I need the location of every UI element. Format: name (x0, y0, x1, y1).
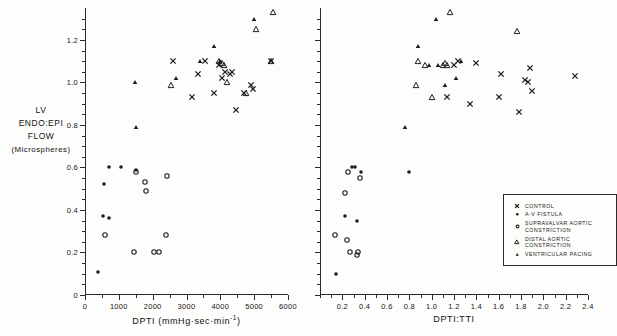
y-tick (82, 146, 85, 147)
data-point-supravalvar (156, 249, 163, 256)
x-tick (320, 295, 321, 298)
x-tick-label: 2.2 (560, 302, 571, 311)
y-tick (317, 136, 320, 137)
data-point-control (188, 94, 196, 102)
legend-label-ventricular-pacing: VENTRICULAR PACING (525, 251, 592, 257)
y-tick (80, 210, 85, 211)
data-point-ventricular_pacing (211, 43, 217, 49)
data-point-control (524, 79, 532, 87)
data-point-control (195, 70, 203, 78)
y-tick (82, 284, 85, 285)
y-tick (317, 61, 320, 62)
data-point-distal_aortic (270, 9, 277, 16)
y-tick (80, 125, 85, 126)
x-tick (443, 295, 444, 298)
data-point-distal_aortic (224, 79, 231, 86)
legend-item-control: CONTROL (509, 203, 612, 209)
data-point-control (250, 85, 258, 93)
data-point-supravalvar (143, 188, 150, 195)
y-tick (317, 19, 320, 20)
data-point-supravalvar (345, 168, 352, 175)
x-tick (271, 295, 272, 298)
x-tick (203, 295, 204, 298)
y-tick (82, 178, 85, 179)
data-point-control (528, 87, 536, 95)
y-tick (82, 72, 85, 73)
legend-item-supravalvar: SUPRAVALVAR AORTIC CONSTRICTION (509, 220, 612, 233)
y-tick (317, 178, 320, 179)
data-point-distal_aortic (268, 58, 275, 65)
legend-item-ventricular-pacing: VENTRICULAR PACING (509, 251, 612, 257)
data-point-supravalvar (131, 249, 138, 256)
data-point-ventricular_pacing (458, 58, 464, 64)
y-axis-spine-left (85, 8, 86, 295)
x-tick-label: 0.6 (381, 302, 392, 311)
y-tick (315, 167, 320, 168)
data-point-control (466, 100, 474, 108)
x-tick (499, 295, 500, 300)
y-tick-label: 0.6 (67, 163, 78, 172)
y-tick (82, 114, 85, 115)
x-axis-title-left-tail: ) (237, 316, 241, 326)
data-point-av_fistula (407, 169, 413, 175)
x-tick (237, 295, 238, 298)
data-point-distal_aortic (168, 81, 175, 88)
data-point-supravalvar (331, 232, 338, 239)
data-point-supravalvar (102, 232, 109, 239)
y-tick-label: 1.0 (67, 78, 78, 87)
x-tick (476, 295, 477, 300)
y-tick (317, 284, 320, 285)
legend-box: CONTROL A-V FISTULA SUPRAVALVAR AORTIC C… (503, 194, 617, 266)
y-tick (317, 157, 320, 158)
legend-label-supravalvar: SUPRAVALVAR AORTIC CONSTRICTION (525, 220, 612, 233)
x-tick (577, 295, 578, 298)
data-point-av_fistula (106, 216, 112, 222)
y-tick (80, 252, 85, 253)
x-tick-label: 3000 (178, 302, 196, 311)
y-tick-label: 1.2 (67, 35, 78, 44)
y-tick (317, 221, 320, 222)
data-point-control (495, 94, 503, 102)
data-point-distal_aortic (242, 90, 249, 97)
x-tick (555, 295, 556, 298)
data-point-ventricular_pacing (415, 43, 421, 49)
y-tick (82, 157, 85, 158)
y-tick (82, 263, 85, 264)
y-tick-label: 0.4 (67, 205, 78, 214)
x-tick (85, 295, 86, 300)
x-axis-title-left: DPTI (mmHg·sec·min-1) (132, 314, 240, 326)
y-tick (317, 72, 320, 73)
data-point-supravalvar (341, 190, 348, 197)
y-tick (315, 252, 320, 253)
data-point-ventricular_pacing (197, 58, 203, 64)
y-tick (82, 93, 85, 94)
data-point-supravalvar (164, 173, 171, 180)
data-point-control (169, 57, 177, 65)
plot-area-right: 0.20.40.60.81.01.21.41.61.82.02.22.4 DPT… (320, 8, 588, 295)
x-tick-label: 0 (83, 302, 87, 311)
data-point-distal_aortic (428, 94, 435, 101)
x-tick (119, 295, 120, 300)
data-point-ventricular_pacing (132, 79, 138, 85)
x-tick-label: 1.2 (448, 302, 459, 311)
x-tick (588, 295, 589, 300)
y-tick (82, 19, 85, 20)
data-point-supravalvar (163, 232, 170, 239)
x-axis-title-left-main: DPTI (mmHg·sec·min (132, 316, 230, 326)
y-tick (80, 167, 85, 168)
data-point-distal_aortic (444, 62, 451, 69)
y-tick (82, 199, 85, 200)
data-point-av_fistula (359, 169, 365, 175)
data-point-ventricular_pacing (251, 16, 257, 22)
y-tick (82, 136, 85, 137)
open-triangle-icon (509, 239, 525, 245)
data-point-av_fistula (352, 165, 358, 171)
x-tick-label: 6000 (279, 302, 297, 311)
x-tick (170, 295, 171, 298)
x-tick (153, 295, 154, 300)
y-tick (317, 29, 320, 30)
data-point-av_fistula (333, 271, 339, 277)
data-point-ventricular_pacing (217, 58, 223, 64)
y-tick (82, 104, 85, 105)
